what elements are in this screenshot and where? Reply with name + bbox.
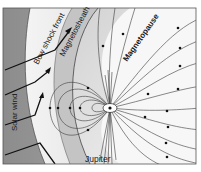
jupiter-label: Jupiter [85,154,111,164]
jupiter-planet [103,104,117,113]
solar-wind-label: Solar wind [10,94,19,131]
magnetosphere-diagram: Bow shock front Magnetosheath Magnetopau… [0,0,201,172]
